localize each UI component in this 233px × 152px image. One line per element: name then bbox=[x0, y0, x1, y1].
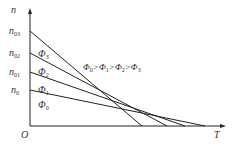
flux-relation: Φ0>Φ1>Φ2>Φ3 bbox=[83, 62, 141, 73]
label-phi3: Φ3 bbox=[38, 48, 49, 60]
label-phi0: Φ0 bbox=[38, 99, 49, 111]
tick-n02: n02 bbox=[9, 47, 20, 59]
x-axis-label: T bbox=[214, 129, 221, 140]
line-phi1 bbox=[30, 72, 185, 126]
y-axis-label: n bbox=[11, 4, 16, 15]
x-axis-arrow-icon bbox=[220, 124, 226, 128]
label-phi2: Φ2 bbox=[38, 66, 49, 78]
origin-label: O bbox=[21, 129, 28, 140]
speed-torque-diagram: n T O n03 n02 n01 n0 Φ3 Φ2 Φ1 Φ0 Φ0>Φ1>Φ… bbox=[0, 0, 233, 152]
line-phi0 bbox=[30, 90, 205, 126]
label-phi1: Φ1 bbox=[38, 84, 49, 96]
y-axis-arrow-icon bbox=[28, 8, 32, 14]
tick-n03: n03 bbox=[9, 25, 20, 37]
tick-n01: n01 bbox=[9, 66, 20, 78]
line-phi3 bbox=[30, 31, 142, 126]
tick-n0: n0 bbox=[11, 84, 19, 96]
